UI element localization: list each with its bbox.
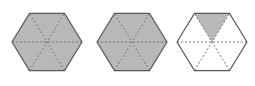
- hexagon-3: [177, 13, 247, 70]
- hexagon-2: [97, 13, 167, 70]
- hexagon-figure-svg: [0, 0, 255, 86]
- hexagon-1: [12, 13, 82, 70]
- hexagon-figure-stage: [0, 0, 255, 86]
